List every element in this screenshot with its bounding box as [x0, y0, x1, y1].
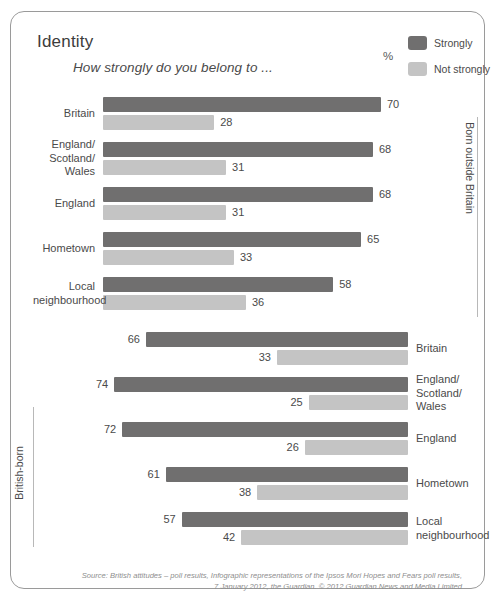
value-label-local-neighbourhood-not-strongly: 36 — [252, 295, 264, 310]
bar-england-scotland-wales-strongly — [103, 142, 373, 157]
category-label-england: England — [416, 432, 496, 446]
category-label-britain: Britain — [416, 342, 496, 356]
value-label-england-not-strongly: 31 — [232, 205, 244, 220]
category-label-hometown: Hometown — [416, 477, 496, 491]
category-label-england: England — [33, 197, 95, 211]
value-label-hometown-strongly: 61 — [140, 467, 160, 482]
bar-local-neighbourhood-strongly — [103, 277, 333, 292]
value-label-britain-not-strongly: 28 — [220, 115, 232, 130]
source-line-2: 7 January 2012, the Guardian. © 2012 Gua… — [71, 581, 462, 592]
side-label-british-born: British-born — [13, 446, 25, 500]
category-label-britain: Britain — [33, 107, 95, 121]
value-label-local-neighbourhood-strongly: 57 — [156, 512, 176, 527]
bar-hometown-strongly — [103, 232, 361, 247]
value-label-england-scotland-wales-not-strongly: 31 — [232, 160, 244, 175]
value-label-england-not-strongly: 26 — [279, 440, 299, 455]
bar-england-strongly — [103, 187, 373, 202]
bar-britain-not-strongly — [103, 115, 214, 130]
value-label-local-neighbourhood-not-strongly: 42 — [215, 530, 235, 545]
value-label-england-scotland-wales-strongly: 74 — [88, 377, 108, 392]
legend-label-strongly: Strongly — [434, 37, 473, 49]
bar-england-scotland-wales-strongly — [114, 377, 408, 392]
category-label-england-scotland-wales: England/ Scotland/ Wales — [33, 138, 95, 179]
value-label-hometown-not-strongly: 33 — [240, 250, 252, 265]
bar-local-neighbourhood-not-strongly — [241, 530, 408, 545]
side-label-born-outside-britain: Born outside Britain — [464, 122, 476, 214]
value-label-england-strongly: 68 — [379, 187, 391, 202]
bar-hometown-not-strongly — [103, 250, 234, 265]
panel-divider-right — [477, 117, 478, 317]
percent-unit-label: % — [383, 50, 393, 62]
infographic-card-stage: Identity How strongly do you belong to .… — [0, 0, 497, 600]
bar-england-scotland-wales-not-strongly — [103, 160, 226, 175]
value-label-britain-not-strongly: 33 — [251, 350, 271, 365]
category-label-england-scotland-wales: England/ Scotland/ Wales — [416, 373, 496, 414]
value-label-hometown-not-strongly: 38 — [231, 485, 251, 500]
legend-swatch-not-strongly — [408, 62, 427, 76]
value-label-hometown-strongly: 65 — [367, 232, 379, 247]
value-label-england-scotland-wales-strongly: 68 — [379, 142, 391, 157]
bar-britain-strongly — [103, 97, 381, 112]
bar-britain-not-strongly — [277, 350, 408, 365]
bar-england-strongly — [122, 422, 408, 437]
chart-legend: Strongly Not strongly — [408, 30, 490, 82]
legend-label-not-strongly: Not strongly — [434, 63, 490, 75]
bar-england-not-strongly — [103, 205, 226, 220]
value-label-britain-strongly: 66 — [120, 332, 140, 347]
bar-local-neighbourhood-not-strongly — [103, 295, 246, 310]
panel-divider-left — [33, 407, 34, 547]
bar-hometown-strongly — [166, 467, 408, 482]
bar-england-scotland-wales-not-strongly — [309, 395, 408, 410]
bar-hometown-not-strongly — [257, 485, 408, 500]
bar-england-not-strongly — [305, 440, 408, 455]
source-line-1: Source: British attitudes – poll results… — [71, 570, 462, 581]
panel-born-outside-britain: 7028Britain6831England/ Scotland/ Wales6… — [11, 97, 484, 322]
category-label-local-neighbourhood: Local neighbourhood — [33, 280, 95, 307]
source-note: Source: British attitudes – poll results… — [71, 570, 462, 592]
value-label-local-neighbourhood-strongly: 58 — [339, 277, 351, 292]
category-label-local-neighbourhood: Local neighbourhood — [416, 515, 496, 542]
chart-subtitle: How strongly do you belong to ... — [73, 60, 273, 75]
legend-item-strongly: Strongly — [408, 30, 490, 56]
category-label-hometown: Hometown — [33, 242, 95, 256]
panel-british-born: 6633Britain7425England/ Scotland/ Wales7… — [11, 332, 484, 552]
bar-local-neighbourhood-strongly — [182, 512, 408, 527]
bar-britain-strongly — [146, 332, 408, 347]
identity-chart-card: Identity How strongly do you belong to .… — [10, 11, 485, 589]
value-label-england-scotland-wales-not-strongly: 25 — [283, 395, 303, 410]
value-label-britain-strongly: 70 — [387, 97, 399, 112]
value-label-england-strongly: 72 — [96, 422, 116, 437]
legend-item-not-strongly: Not strongly — [408, 56, 490, 82]
legend-swatch-strongly — [408, 36, 427, 50]
page-title: Identity — [37, 32, 93, 52]
